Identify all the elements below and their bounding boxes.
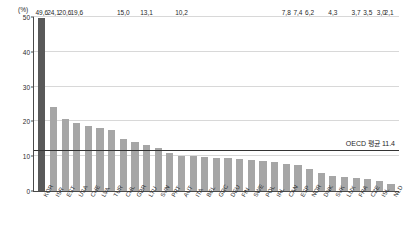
oecd-average-line: OECD 평균 11.4 [34, 150, 399, 151]
bar-value-label: 6,2 [305, 9, 314, 16]
x-axis-label-slot: BEL [198, 193, 210, 239]
oecd-average-label: OECD 평균 11.4 [346, 138, 395, 148]
bar-slot: 2,1 [385, 17, 397, 191]
bar-slot [315, 17, 327, 191]
bar [62, 119, 69, 191]
bar-slot [257, 17, 269, 191]
bar [85, 126, 92, 191]
x-axis-label-slot: TUR [105, 193, 117, 239]
x-axis-label-slot: DEU [222, 193, 234, 239]
bar [248, 160, 255, 191]
y-axis-tick-label: 20 [23, 118, 30, 125]
bar-value-label: 13,1 [140, 9, 153, 16]
bar-slot: 3,0 [374, 17, 386, 191]
x-axis-label-slot: GBR [128, 193, 140, 239]
y-axis-tick-label: 0 [26, 188, 30, 195]
x-axis-label-slot: NOR [303, 193, 315, 239]
x-axis-label-slot: LUX [338, 193, 350, 239]
bar-slot: 10,2 [176, 17, 188, 191]
x-axis-label-slot: POL [257, 193, 269, 239]
y-axis-tick-label: 50 [23, 14, 30, 21]
plot-area: 01020304050 49,624,120,619,615,013,110,2… [33, 17, 399, 192]
bar [50, 107, 57, 191]
bar-value-label: 4,3 [328, 9, 337, 16]
x-axis-label-slot: CAN [280, 193, 292, 239]
bar-slot [164, 17, 176, 191]
bar-slot [339, 17, 351, 191]
x-axis-label-slot: ISR [47, 193, 59, 239]
bar-value-label: 2,1 [385, 9, 394, 16]
x-axis-label-slot: LTU [140, 193, 152, 239]
bar-value-label: 15,0 [117, 9, 130, 16]
bar-slot: 7,8 [280, 17, 292, 191]
bar-slot [129, 17, 141, 191]
bar [155, 148, 162, 191]
bar [120, 139, 127, 191]
bar-slot [199, 17, 211, 191]
bar-slot [234, 17, 246, 191]
x-axis-label-slot: NLD [385, 193, 397, 239]
x-axis-label-slot: ESP [292, 193, 304, 239]
bar [201, 157, 208, 191]
bar-value-label: 7,4 [293, 9, 302, 16]
bar-slot: 6,2 [304, 17, 316, 191]
bar [131, 142, 138, 191]
bar-slot [152, 17, 164, 191]
x-axis-label-slot: EST [58, 193, 70, 239]
y-axis-tick-label: 30 [23, 83, 30, 90]
x-axis-label-slot: CHE [82, 193, 94, 239]
x-axis-label-slot: AUT [175, 193, 187, 239]
bar-slot [187, 17, 199, 191]
bar-slot [83, 17, 95, 191]
bar [38, 18, 45, 191]
bar-slot [94, 17, 106, 191]
bar-slot [211, 17, 223, 191]
bar-slot: 7,4 [292, 17, 304, 191]
bar [108, 130, 115, 191]
bar [96, 128, 103, 191]
bar-slot: 3,5 [362, 17, 374, 191]
bar-slot: 4,3 [327, 17, 339, 191]
bar-slot: 19,6 [71, 17, 83, 191]
x-axis-label-slot: ISL [373, 193, 385, 239]
x-axis-label-slot: SVK [327, 193, 339, 239]
x-axis-label-slot: DNK [315, 193, 327, 239]
bar-slot [269, 17, 281, 191]
bar-value-label: 3,7 [352, 9, 361, 16]
x-axis-label-slot: PRT [163, 193, 175, 239]
bar [73, 123, 80, 191]
bar-slot [106, 17, 118, 191]
bar-value-label: 19,6 [70, 9, 83, 16]
x-axis-label-slot: KOR [35, 193, 47, 239]
y-axis-tick-label: 10 [23, 153, 30, 160]
x-axis-label-slot: FIN [233, 193, 245, 239]
bar-slot: 3,7 [350, 17, 362, 191]
y-axis-unit-label: (%) [18, 6, 28, 13]
bar-value-label: 7,8 [282, 9, 291, 16]
bar-slot [222, 17, 234, 191]
x-axis-label-slot: USA [70, 193, 82, 239]
bar-slot: 20,6 [59, 17, 71, 191]
y-axis-tick-label: 40 [23, 48, 30, 55]
bar-slot: 49,6 [36, 17, 48, 191]
x-axis-label-slot: ITA [187, 193, 199, 239]
x-axis-label-slot: SVN [152, 193, 164, 239]
x-axis-label-slot: GRC [210, 193, 222, 239]
x-axis-label-slot: CZE [362, 193, 374, 239]
bar-value-label: 3,5 [363, 9, 372, 16]
bar-slot: 24,1 [48, 17, 60, 191]
bar-slot: 13,1 [141, 17, 153, 191]
x-axis-labels: KORISRESTUSACHELVATURCHLGBRLTUSVNPRTAUTI… [33, 193, 399, 239]
x-axis-label-slot: CHL [117, 193, 129, 239]
bar-value-label: 10,2 [175, 9, 188, 16]
x-axis-label-slot: FRA [350, 193, 362, 239]
bar [283, 164, 290, 191]
x-axis-label-slot: SWE [245, 193, 257, 239]
x-axis-label-slot: IRL [268, 193, 280, 239]
bar-series: 49,624,120,619,615,013,110,27,87,46,24,3… [34, 17, 399, 191]
bar-slot: 15,0 [117, 17, 129, 191]
x-axis-label-slot: LVA [93, 193, 105, 239]
bar-slot [246, 17, 258, 191]
